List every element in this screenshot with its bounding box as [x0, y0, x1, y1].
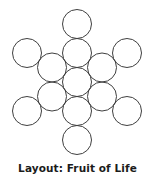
circle-inner-sw: [38, 82, 67, 111]
circle-outer-n: [63, 10, 92, 39]
circle-outer-sw: [13, 97, 42, 126]
circle-inner-n: [63, 39, 92, 68]
fruit-of-life-diagram: [0, 0, 155, 160]
circle-inner-ne: [88, 53, 117, 82]
circle-inner-s: [63, 97, 92, 126]
circle-inner-se: [88, 82, 117, 111]
diagram-area: [0, 0, 155, 160]
circle-group: [13, 10, 142, 155]
circle-outer-s: [63, 126, 92, 155]
circle-inner-nw: [38, 53, 67, 82]
circle-outer-ne: [113, 39, 142, 68]
fruit-of-life-figure: Layout: Fruit of Life: [0, 0, 155, 184]
figure-caption: Layout: Fruit of Life: [0, 161, 155, 175]
circle-center: [63, 68, 92, 97]
circle-outer-nw: [13, 39, 42, 68]
circle-outer-se: [113, 97, 142, 126]
